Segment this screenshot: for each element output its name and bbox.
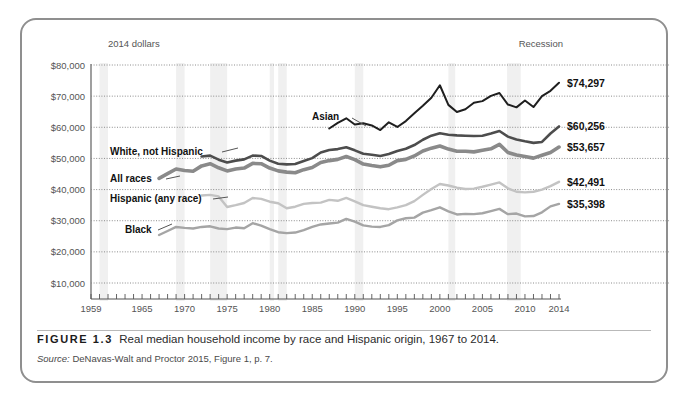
series-end-label-hispanic-any-race: $42,491 <box>567 176 605 188</box>
series-end-label-black: $35,398 <box>567 198 605 210</box>
recession-annotation: Recession <box>519 38 563 49</box>
caption-source-line: Source: DeNavas-Walt and Proctor 2015, F… <box>37 353 637 365</box>
x-axis-tick-label: 1990 <box>344 303 365 314</box>
y-axis-tick-label: $40,000 <box>51 184 85 195</box>
x-axis-tick-label: 1970 <box>174 303 195 314</box>
x-axis-tick-label: 1965 <box>131 303 152 314</box>
recession-band <box>507 63 521 301</box>
y-axis-tick-label: $80,000 <box>51 60 85 71</box>
series-inline-label-white-not-hispanic: White, not Hispanic <box>110 146 203 157</box>
y-axis-tick-label: $20,000 <box>51 246 85 257</box>
figure-container: $80,000$70,000$60,000$50,000$40,000$30,0… <box>0 0 688 406</box>
chart-area: $80,000$70,000$60,000$50,000$40,000$30,0… <box>0 0 688 330</box>
series-inline-label-hispanic-any-race: Hispanic (any race) <box>110 193 202 204</box>
series-inline-label-black: Black <box>125 224 152 235</box>
income-line-chart: $80,000$70,000$60,000$50,000$40,000$30,0… <box>0 0 688 330</box>
x-axis-tick-label: 2000 <box>429 303 450 314</box>
units-label: 2014 dollars <box>108 38 160 49</box>
x-axis-tick-label: 2010 <box>514 303 535 314</box>
x-axis-tick-label: 1995 <box>387 303 408 314</box>
recession-band <box>448 63 455 301</box>
figure-caption: FIGURE 1.3 Real median household income … <box>37 332 637 365</box>
y-axis-tick-label: $70,000 <box>51 91 85 102</box>
recession-band <box>210 63 227 301</box>
x-axis-tick-label: 1975 <box>217 303 238 314</box>
series-inline-label-asian: Asian <box>312 111 339 122</box>
recession-band <box>100 63 109 301</box>
y-axis-tick-label: $50,000 <box>51 153 85 164</box>
caption-divider <box>37 330 651 331</box>
figure-number: FIGURE 1.3 <box>37 333 113 345</box>
recession-band <box>278 63 287 301</box>
series-inline-label-all-races: All races <box>110 173 152 184</box>
x-axis-tick-label: 2005 <box>472 303 493 314</box>
series-end-label-all-races: $53,657 <box>567 141 605 153</box>
x-axis-tick-label: 1980 <box>259 303 280 314</box>
source-text: DeNavas-Walt and Proctor 2015, Figure 1,… <box>70 353 273 364</box>
x-axis-tick-label: 2014 <box>548 303 569 314</box>
figure-title: Real median household income by race and… <box>119 333 499 345</box>
series-end-label-asian: $74,297 <box>567 77 605 89</box>
recession-band <box>355 63 364 301</box>
y-axis-tick-label: $30,000 <box>51 215 85 226</box>
recession-band <box>176 63 185 301</box>
series-line-hispanic-any-race <box>202 182 559 209</box>
y-axis-tick-label: $60,000 <box>51 122 85 133</box>
x-axis-tick-label: 1985 <box>302 303 323 314</box>
series-line-asian <box>329 83 559 130</box>
series-end-label-white-not-hispanic: $60,256 <box>567 120 605 132</box>
recession-band <box>270 63 274 301</box>
source-prefix: Source: <box>37 353 70 364</box>
caption-title-line: FIGURE 1.3 Real median household income … <box>37 332 637 346</box>
y-axis-tick-label: $10,000 <box>51 278 85 289</box>
x-axis-tick-label: 1959 <box>80 303 101 314</box>
